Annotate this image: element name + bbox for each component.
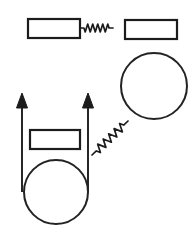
block-top-left: [28, 19, 80, 38]
diagram-svg: [0, 0, 193, 234]
block-top-right: [125, 20, 177, 39]
diagram-canvas: [0, 0, 193, 234]
circle-right-disk: [121, 53, 187, 119]
block-lower: [30, 130, 80, 149]
circle-lower-disk: [24, 160, 88, 224]
